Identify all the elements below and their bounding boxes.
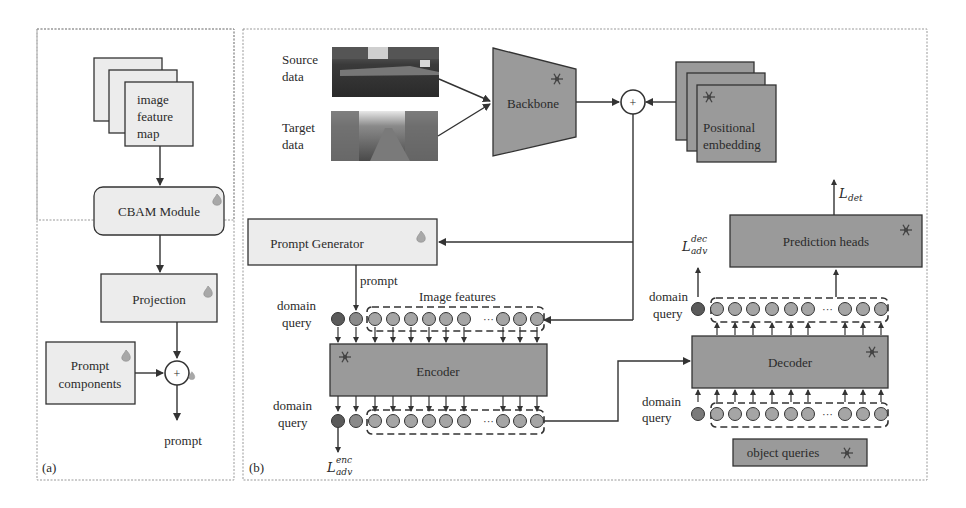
panel-a-label: (a): [42, 460, 56, 475]
decoder-label: Decoder: [768, 355, 813, 370]
decoder-input-arrows: [698, 390, 881, 402]
prompt-components-label-2: components: [59, 376, 122, 391]
object-queries-label: object queries: [747, 445, 820, 460]
target-image: [331, 111, 438, 161]
svg-text:···: ···: [483, 415, 494, 427]
svg-text:···: ···: [822, 303, 833, 315]
feature-map-label-1: image: [137, 92, 169, 107]
svg-text:adv: adv: [336, 467, 352, 477]
positional-embedding-stack: Positional embedding: [676, 62, 776, 162]
decoder-output-tokens: ···: [692, 298, 889, 322]
prompt-output-label: prompt: [164, 433, 202, 448]
domain-query-label-dec-in-1: domain: [642, 394, 681, 409]
arrow-source-to-backbone: [439, 79, 490, 101]
prediction-heads-block: Prediction heads: [730, 215, 922, 267]
svg-text:dec: dec: [691, 234, 707, 244]
svg-text:det: det: [848, 193, 863, 203]
object-query-tokens: ···: [692, 403, 889, 427]
svg-text:enc: enc: [336, 455, 352, 465]
domain-query-label-enc-in-2: query: [282, 315, 312, 330]
backbone-block: Backbone: [493, 48, 576, 156]
svg-text:+: +: [630, 96, 637, 110]
domain-query-label-dec-out-2: query: [653, 306, 683, 321]
sum-node-b: +: [621, 90, 645, 114]
encoder-label: Encoder: [416, 364, 460, 379]
domain-query-label-enc-out-1: domain: [273, 398, 312, 413]
prompt-generator-box: Prompt Generator: [248, 219, 437, 265]
domain-query-label-enc-in-1: domain: [277, 298, 316, 313]
cbam-module-box: CBAM Module: [94, 187, 224, 235]
encoder-block: Encoder: [330, 344, 547, 396]
projection-box: Projection: [101, 274, 217, 322]
panel-a: image feature map CBAM Module Projection…: [37, 29, 234, 480]
target-label-1: Target: [282, 120, 315, 135]
prompt-label: prompt: [360, 273, 398, 288]
source-label-1: Source: [282, 52, 318, 67]
feature-map-label-2: feature: [137, 109, 173, 124]
feature-map-label-3: map: [137, 126, 159, 141]
decoder-output-arrows: [717, 323, 881, 335]
svg-text:L: L: [681, 239, 691, 254]
panel-b: Source data Target data Backbone: [243, 29, 927, 480]
domain-query-label-enc-out-2: query: [278, 415, 308, 430]
positional-label-1: Positional: [703, 120, 755, 135]
arrow-target-to-backbone: [438, 104, 490, 136]
svg-text:adv: adv: [691, 246, 707, 256]
projection-label: Projection: [132, 292, 186, 307]
feature-map-stack: image feature map: [94, 58, 193, 146]
domain-query-token: [332, 415, 345, 428]
domain-query-token: [692, 303, 705, 316]
sum-node-a: +: [165, 361, 195, 385]
architecture-diagram: image feature map CBAM Module Projection…: [0, 0, 966, 508]
prompt-generator-label: Prompt Generator: [270, 236, 364, 251]
svg-text:L: L: [326, 460, 336, 475]
domain-query-token: [332, 313, 345, 326]
cbam-label: CBAM Module: [118, 204, 200, 219]
prompt-components-box: Prompt components: [46, 342, 135, 404]
prediction-heads-label: Prediction heads: [783, 234, 869, 249]
svg-text:+: +: [174, 367, 181, 381]
loss-enc-adv: L enc adv: [326, 455, 352, 477]
decoder-block: Decoder: [692, 336, 888, 388]
image-features-label: Image features: [419, 289, 496, 304]
domain-query-label-dec-in-2: query: [642, 410, 672, 425]
object-queries-box: object queries: [733, 439, 867, 466]
encoder-output-tokens: ···: [332, 410, 545, 434]
svg-text:···: ···: [483, 313, 494, 325]
prompt-components-label-1: Prompt: [71, 358, 110, 373]
prompt-token: [350, 313, 363, 326]
source-image: [332, 47, 439, 97]
target-label-2: data: [282, 137, 304, 152]
encoder-input-tokens: ···: [332, 307, 545, 331]
domain-query-token: [692, 408, 705, 421]
backbone-label: Backbone: [507, 96, 559, 111]
panel-b-label: (b): [249, 460, 264, 475]
svg-text:L: L: [838, 186, 848, 201]
positional-label-2: embedding: [703, 137, 761, 152]
svg-text:···: ···: [822, 408, 833, 420]
encoder-output-arrows: [338, 396, 537, 411]
source-label-2: data: [282, 69, 304, 84]
loss-det: L det: [838, 186, 863, 203]
loss-dec-adv: L dec adv: [681, 234, 707, 256]
domain-query-label-dec-out-1: domain: [649, 289, 688, 304]
